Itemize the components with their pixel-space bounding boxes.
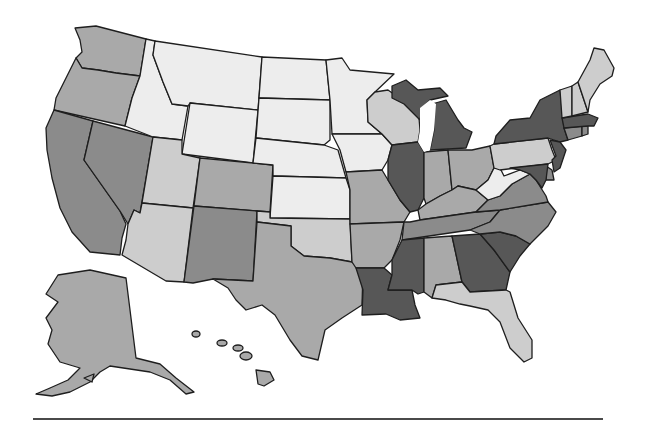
state-az xyxy=(122,203,193,282)
state-sd xyxy=(256,98,330,145)
state-vt xyxy=(560,86,572,118)
divider-rule xyxy=(33,418,603,420)
state-wy xyxy=(182,103,258,163)
state-fl xyxy=(432,282,532,362)
state-ak xyxy=(36,270,194,396)
state-ri xyxy=(582,126,588,136)
state-ny xyxy=(494,90,568,144)
state-nm xyxy=(184,206,257,283)
us-choropleth-map xyxy=(0,0,656,422)
state-co xyxy=(194,158,273,212)
state-hi xyxy=(192,331,274,386)
state-nd xyxy=(259,57,330,100)
state-ks xyxy=(270,176,350,219)
